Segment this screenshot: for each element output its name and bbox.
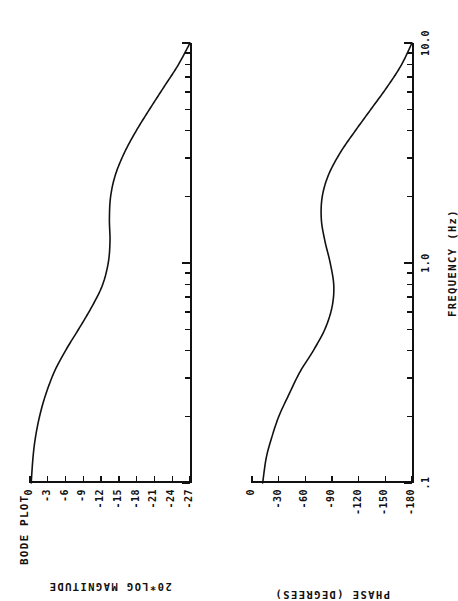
phase-tick [331,476,332,483]
frequency-tick [407,329,412,330]
phase-tick [358,476,359,483]
frequency-tick [407,109,412,110]
frequency-tick [185,284,190,285]
phase-tick [385,476,386,483]
phase-tick-label: -30 [272,489,283,535]
frequency-tick [185,109,190,110]
phase-tick [278,476,279,483]
frequency-tick [407,196,412,197]
frequency-tick [182,42,190,43]
frequency-tick [407,64,412,65]
frequency-tick [407,76,412,77]
phase-tick-label: 0 [245,489,256,535]
phase-tick-label: -60 [298,489,309,535]
frequency-tick [185,377,190,378]
frequency-tick [407,91,412,92]
phase-axis-title: PHASE (DEGREES) [274,589,390,601]
frequency-tick [185,350,190,351]
frequency-tick [407,296,412,297]
magnitude-tick-label: -21 [147,489,158,529]
frequency-tick [407,284,412,285]
magnitude-tick-label: -18 [130,489,141,529]
frequency-tick [182,262,190,263]
phase-tick-label: -90 [325,489,336,535]
frequency-tick [185,296,190,297]
magnitude-tick [189,476,190,483]
magnitude-tick [83,476,84,483]
magnitude-tick [172,476,173,483]
frequency-tick [407,272,412,273]
magnitude-tick-label: -12 [94,489,105,529]
frequency-tick [185,76,190,77]
frequency-tick [185,329,190,330]
phase-tick [251,476,252,483]
magnitude-tick [118,476,119,483]
phase-tick-label: -120 [352,489,363,535]
magnitude-tick [47,476,48,483]
frequency-tick [185,272,190,273]
frequency-tick [185,52,190,53]
magnitude-tick-label: -27 [183,489,194,529]
magnitude-tick [136,476,137,483]
magnitude-tick-label: -6 [59,489,70,529]
magnitude-tick-label: 0 [23,489,34,529]
frequency-tick [407,416,412,417]
frequency-tick-label: 10.0 [420,21,431,65]
frequency-tick [185,196,190,197]
frequency-tick [407,377,412,378]
frequency-axis-title: FREQUENCY (Hz) [446,209,458,317]
magnitude-tick [29,476,30,483]
phase-tick-label: -150 [378,489,389,535]
magnitude-tick-label: -15 [112,489,123,529]
frequency-tick [407,130,412,131]
frequency-tick [407,350,412,351]
magnitude-tick-label: -9 [76,489,87,529]
frequency-tick [185,91,190,92]
frequency-tick-label: .1 [420,461,431,505]
frequency-tick [404,262,412,263]
frequency-tick [185,64,190,65]
phase-tick-label: -180 [405,489,416,535]
magnitude-tick [100,476,101,483]
frequency-tick [407,52,412,53]
magnitude-tick [154,476,155,483]
frequency-tick [185,311,190,312]
frequency-tick [185,130,190,131]
frequency-tick-label: 1.0 [420,241,431,285]
magnitude-tick-label: -3 [41,489,52,529]
frequency-tick [185,157,190,158]
frequency-tick [407,311,412,312]
phase-tick [411,476,412,483]
frequency-tick [185,416,190,417]
frequency-tick [404,42,412,43]
frequency-tick [407,157,412,158]
phase-tick [305,476,306,483]
magnitude-tick [65,476,66,483]
magnitude-tick-label: -24 [165,489,176,529]
